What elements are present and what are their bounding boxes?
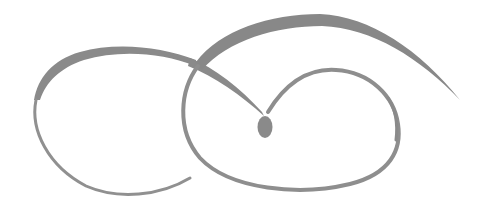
- left-loop-lower-stroke: [35, 100, 190, 194]
- right-loop-outer-stroke: [183, 66, 398, 190]
- flourish-ornament: [0, 0, 493, 210]
- ornament-canvas: [0, 0, 493, 210]
- left-loop-upper-stroke: [34, 46, 196, 100]
- right-loop-thickening: [388, 98, 397, 140]
- teardrop-accent: [258, 116, 273, 138]
